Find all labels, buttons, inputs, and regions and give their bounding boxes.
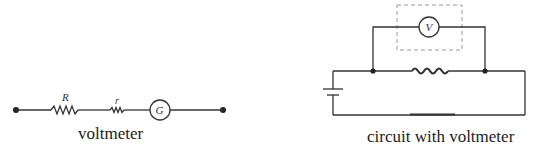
junction-dot-left bbox=[370, 68, 375, 73]
voltmeter-label: V bbox=[426, 21, 434, 33]
galvanometer-label: G bbox=[156, 104, 164, 116]
resistor-r-label: r bbox=[115, 95, 119, 106]
circuit-diagram bbox=[323, 5, 525, 115]
resistor-coil-icon bbox=[412, 69, 448, 74]
resistor-R-label: R bbox=[61, 91, 69, 103]
voltmeter-branch-left bbox=[373, 27, 419, 71]
junction-dot-right bbox=[482, 68, 487, 73]
circuit-caption: circuit with voltmeter bbox=[367, 127, 514, 147]
voltmeter-caption: voltmeter bbox=[78, 124, 143, 144]
resistor-r-icon bbox=[110, 108, 124, 113]
resistor-R-icon bbox=[51, 106, 78, 114]
voltmeter-diagram bbox=[13, 100, 226, 120]
